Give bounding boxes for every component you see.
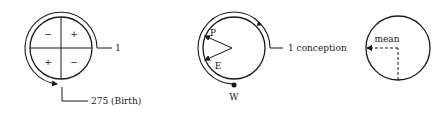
e-label: E	[215, 61, 222, 71]
mean-label: mean	[374, 34, 399, 44]
w-point-dot	[232, 83, 237, 88]
w-label: W	[229, 92, 239, 102]
p-label: P	[210, 28, 216, 38]
conception-label: 1 conception	[288, 43, 347, 53]
start-label: 1	[115, 43, 121, 53]
inner-circle	[203, 17, 265, 79]
quadrant-top-right-sign: +	[70, 29, 78, 39]
diagram-canvas: − + + − 1 275 (Birth) P E W 1 conception…	[0, 0, 447, 118]
quadrant-top-left-sign: −	[44, 29, 52, 39]
quadrant-cycle-diagram: − + + − 1 275 (Birth)	[25, 12, 141, 106]
conception-cycle-diagram: P E W 1 conception	[198, 12, 347, 102]
quadrant-bottom-right-sign: −	[70, 57, 78, 67]
birth-label: 275 (Birth)	[91, 96, 141, 106]
quadrant-bottom-left-sign: +	[44, 57, 52, 67]
end-leader-line	[62, 87, 88, 101]
e-arrow	[205, 48, 232, 60]
mean-circle-diagram: mean	[366, 16, 430, 80]
